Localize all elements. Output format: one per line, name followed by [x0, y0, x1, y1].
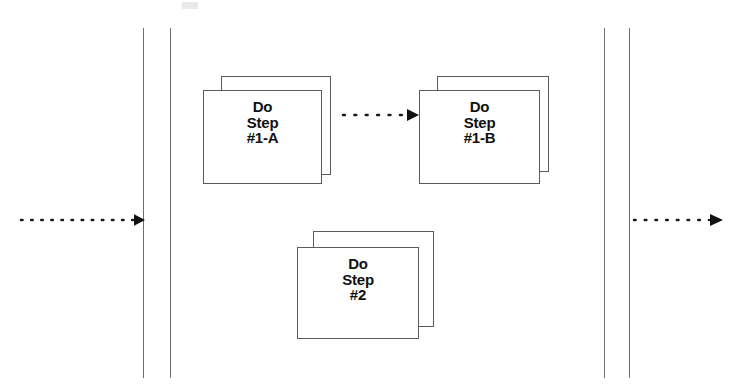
- right-outer-boundary-line: [629, 28, 630, 378]
- node-step-1a-label: Do Step #1-A: [203, 99, 322, 146]
- left-outer-boundary-line: [143, 28, 144, 378]
- arrow-step1a-to-step1b-head: [407, 109, 419, 121]
- arrow-step1a-to-step1b: [340, 107, 422, 123]
- node-step-1b-label: Do Step #1-B: [419, 99, 540, 146]
- right-inner-boundary-line: [604, 28, 605, 378]
- scan-smudge-artifact: [182, 2, 198, 9]
- entry-arrow-head: [134, 214, 145, 226]
- entry-arrow: [18, 212, 148, 228]
- diagram-canvas: Do Step #1-A Do Step #1-B Do Step #2: [0, 0, 744, 391]
- exit-arrow: [631, 212, 727, 228]
- node-step-2-label: Do Step #2: [297, 256, 419, 303]
- exit-arrow-head: [710, 214, 723, 226]
- left-inner-boundary-line: [170, 28, 171, 378]
